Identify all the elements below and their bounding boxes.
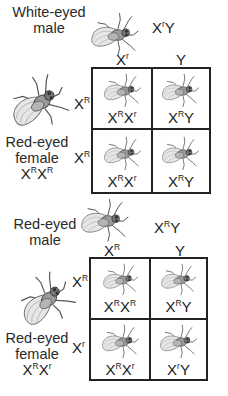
fly-icon — [103, 136, 147, 172]
cross2-male-label-line1: Red-eyed — [12, 216, 78, 232]
cross2-female-label-line2: female — [2, 346, 72, 362]
cross2-cell-1-1-genotype: XRXR — [91, 299, 149, 315]
cross1-cell-2-1: XRXr — [93, 130, 151, 192]
cross2-punnett-square: XRXR XRY XRXr XrY — [89, 257, 208, 381]
cross1-cell-1-2-genotype: XRY — [153, 110, 209, 126]
cross1-cell-2-1-genotype: XRXr — [93, 174, 151, 190]
cross2-row-header-1: XR — [72, 274, 88, 290]
fly-icon — [103, 73, 147, 109]
cross1-col-header-1: Xr — [116, 52, 129, 68]
cross2-male-label: Red-eyed male — [12, 216, 78, 248]
cross1-male-label: White-eyed male — [10, 4, 88, 36]
cross1-cell-1-2: XRY — [153, 69, 209, 128]
cross1-female-label-line2: female — [2, 150, 72, 166]
cross1-col-header-2: Y — [176, 52, 186, 68]
cross1-male-label-line2: male — [10, 20, 88, 36]
cross1-row-header-2: XR — [74, 150, 90, 166]
cross1-female-label-line1: Red-eyed — [2, 134, 72, 150]
fly-icon — [78, 198, 138, 244]
cross2-cell-2-1-genotype: XRXr — [91, 362, 149, 378]
cross1-male-label-line1: White-eyed — [10, 4, 88, 20]
cross1-punnett-square: XRXr XRY XRXr XRY — [91, 67, 211, 194]
cross2-female-label-line1: Red-eyed — [2, 330, 72, 346]
cross2-female-label: Red-eyed female XRXr — [2, 330, 72, 378]
cross1-female-genotype: XRXR — [2, 166, 72, 182]
cross2-male-label-line2: male — [12, 232, 78, 248]
fly-icon — [161, 136, 205, 172]
fly-icon — [161, 73, 205, 109]
cross2-cell-2-1: XRXr — [91, 320, 149, 379]
fly-icon — [101, 324, 145, 360]
cross2-cell-2-2: XrY — [151, 320, 206, 379]
cross2-row-header-2: Xr — [72, 340, 85, 356]
cross1-cell-2-2: XRY — [153, 130, 209, 192]
fly-icon — [159, 324, 203, 360]
fly-icon — [159, 263, 203, 297]
cross1-cell-2-2-genotype: XRY — [153, 174, 209, 190]
cross2-cell-1-1: XRXR — [91, 259, 149, 318]
cross1-female-label: Red-eyed female XRXR — [2, 134, 72, 182]
cross2-cell-1-2: XRY — [151, 259, 206, 318]
cross2-cell-1-2-genotype: XRY — [151, 299, 206, 315]
cross1-row-header-1: XR — [74, 96, 90, 112]
cross2-male-genotype: XRY — [154, 220, 180, 236]
cross1-male-genotype: XrY — [152, 20, 175, 36]
fly-icon — [101, 263, 145, 297]
cross1-cell-1-1: XRXr — [93, 69, 151, 128]
cross2-female-genotype: XRXr — [2, 362, 72, 378]
cross2-cell-2-2-genotype: XrY — [151, 362, 206, 378]
cross1-cell-1-1-genotype: XRXr — [93, 110, 151, 126]
fly-icon — [5, 257, 93, 341]
